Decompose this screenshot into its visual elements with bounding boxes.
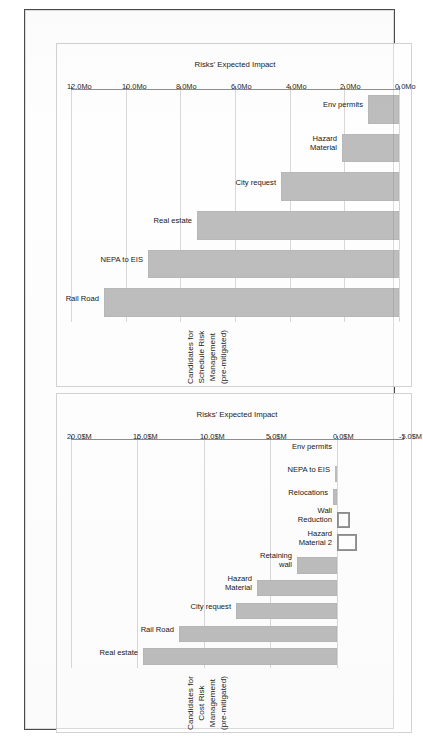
bar-category-label: Env permits <box>292 443 332 452</box>
chart-cost-plot: Candidates for Cost Risk Management (pre… <box>57 394 413 734</box>
bar-category-label: NEPA to EIS <box>100 256 143 265</box>
chart-cost-risk: Candidates for Cost Risk Management (pre… <box>56 393 412 733</box>
chart-schedule-risk: Candidates for Schedule Risk Management … <box>56 43 412 387</box>
bar-category-label: Hazard Material <box>225 576 252 593</box>
bar <box>281 172 399 201</box>
bar-category-label: Rail Road <box>65 294 98 303</box>
value-axis-spine <box>71 439 403 440</box>
value-axis-baseline <box>337 440 338 668</box>
bar-category-label: Hazard Material <box>310 135 337 152</box>
chart-schedule-plot: Candidates for Schedule Risk Management … <box>57 44 413 388</box>
bar <box>342 134 399 163</box>
bar <box>337 534 357 550</box>
gridline <box>344 90 345 322</box>
gridline <box>290 90 291 322</box>
bar-category-label: Real estate <box>153 217 191 226</box>
gridline <box>71 90 72 322</box>
bar <box>297 557 337 573</box>
scanned-page: Candidates for Schedule Risk Management … <box>24 9 395 730</box>
chart-title: Candidates for Cost Risk Management (pre… <box>185 674 229 732</box>
bar-category-label: Rail Road <box>140 626 173 635</box>
bar-category-label: Hazard Material 2 <box>298 530 331 547</box>
gridline <box>180 90 181 322</box>
bar-category-label: Relocations <box>289 489 329 498</box>
gridline <box>235 90 236 322</box>
axis-title: Risks' Expected Impact <box>195 60 276 69</box>
bar-category-label: City request <box>190 603 231 612</box>
bar <box>257 580 337 596</box>
bar-category-label: Env permits <box>322 101 362 110</box>
value-axis-baseline <box>399 90 400 322</box>
bar <box>333 489 336 505</box>
bar-category-label: Wall Reduction <box>297 507 331 524</box>
bar <box>143 648 337 664</box>
bar <box>179 626 337 642</box>
bar <box>104 288 399 317</box>
bar-category-label: NEPA to EIS <box>288 466 331 475</box>
gridline <box>137 440 138 668</box>
gridline <box>71 440 72 668</box>
bar <box>335 466 337 482</box>
chart-schedule-rotated-canvas: Candidates for Schedule Risk Management … <box>57 44 413 388</box>
gridline <box>126 90 127 322</box>
bar-category-label: Real estate <box>99 648 137 657</box>
bar <box>368 95 399 124</box>
bar-category-label: City request <box>236 178 277 187</box>
bar <box>197 211 399 240</box>
axis-title: Risks' Expected Impact <box>197 410 278 419</box>
bar-category-label: Retaining wall <box>260 553 292 570</box>
bar <box>337 512 350 528</box>
chart-title: Candidates for Schedule Risk Management … <box>185 328 229 386</box>
bar <box>148 250 399 279</box>
bar <box>236 603 337 619</box>
value-axis-spine <box>71 89 399 90</box>
chart-cost-rotated-canvas: Candidates for Cost Risk Management (pre… <box>57 394 413 734</box>
